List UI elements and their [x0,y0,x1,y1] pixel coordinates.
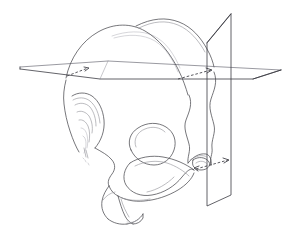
occipital-contour-inner [210,72,216,165]
sagittal-crest [112,32,180,72]
occipital-bridge [188,154,211,165]
horizontal-reference-plane [20,61,281,79]
frontal-nasal-region [64,80,105,158]
premaxilla-tip [127,214,143,224]
skull-reference-plane-figure [0,0,294,230]
pencil-artifacts [83,158,89,165]
orbit [129,123,175,165]
mandible-angle [118,173,194,201]
horizontal-plane-back-edges [20,61,281,70]
anterior-dashed-guide-arrow [67,67,89,76]
maxilla-snout [102,186,143,224]
cranial-dome-far [136,19,214,67]
basal-dashed-guide-arrow [194,158,229,171]
occipital-condyle [192,158,209,170]
zygomatic-arch [124,156,194,195]
figure-canvas [0,0,294,230]
occipital-contour-outer [185,95,191,163]
cranial-facial-transition [95,148,118,196]
